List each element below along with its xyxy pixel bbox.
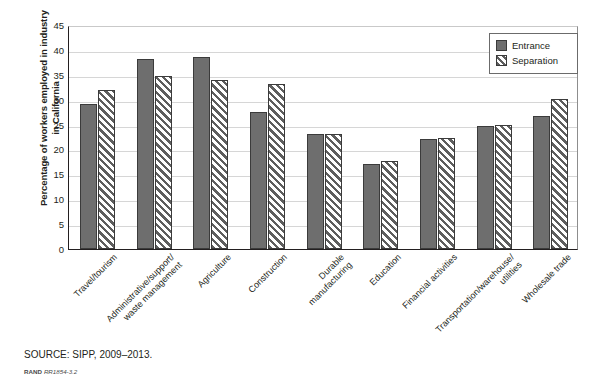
y-tick-label: 35 — [38, 71, 64, 81]
legend-item-separation: Separation — [496, 53, 572, 68]
bar-group — [193, 27, 228, 249]
bar-group — [80, 27, 115, 249]
rand-logo-text: RAND — [24, 368, 42, 375]
y-tick-label: 20 — [38, 145, 64, 155]
bar-entrance[interactable] — [420, 139, 437, 249]
y-tick-label: 15 — [38, 170, 64, 180]
legend-label-entrance: Entrance — [512, 40, 550, 51]
legend-item-entrance: Entrance — [496, 38, 572, 53]
bar-separation[interactable] — [495, 125, 512, 249]
rand-document-id: RANDRR1854-3.2 — [24, 368, 77, 376]
legend-label-separation: Separation — [512, 55, 558, 66]
bar-separation[interactable] — [438, 138, 455, 249]
bar-entrance[interactable] — [137, 59, 154, 249]
bar-group — [250, 27, 285, 249]
y-tick-label: 5 — [38, 220, 64, 230]
bar-entrance[interactable] — [533, 116, 550, 249]
bar-group — [420, 27, 455, 249]
bar-separation[interactable] — [325, 134, 342, 249]
bar-entrance[interactable] — [477, 126, 494, 249]
bar-entrance[interactable] — [307, 134, 324, 249]
y-tick-label: 0 — [38, 245, 64, 255]
bar-entrance[interactable] — [80, 104, 97, 249]
y-axis-tick-labels: 454035302520151050 — [38, 26, 64, 250]
bar-entrance[interactable] — [193, 57, 210, 249]
bar-entrance[interactable] — [250, 112, 267, 249]
y-tick-label: 30 — [38, 96, 64, 106]
y-tick-label: 25 — [38, 121, 64, 131]
bar-group — [137, 27, 172, 249]
y-tick-label: 10 — [38, 195, 64, 205]
bar-group — [363, 27, 398, 249]
bar-separation[interactable] — [155, 76, 172, 249]
bar-entrance[interactable] — [363, 164, 380, 249]
y-tick-label: 40 — [38, 46, 64, 56]
bar-separation[interactable] — [381, 161, 398, 249]
bar-group — [307, 27, 342, 249]
bar-separation[interactable] — [211, 80, 228, 249]
bar-separation[interactable] — [268, 84, 285, 249]
source-note: SOURCE: SIPP, 2009–2013. — [24, 349, 152, 361]
x-axis-tick-labels: Travel/tourismAdministrative/support/ wa… — [68, 252, 578, 344]
bar-separation[interactable] — [551, 99, 568, 249]
legend-swatch-separation-icon — [496, 55, 507, 66]
bar-separation[interactable] — [98, 90, 115, 249]
rand-report-number: RR1854-3.2 — [44, 368, 77, 375]
y-tick-label: 45 — [38, 21, 64, 31]
legend-swatch-entrance-icon — [496, 40, 507, 51]
chart-legend: Entrance Separation — [489, 33, 578, 74]
